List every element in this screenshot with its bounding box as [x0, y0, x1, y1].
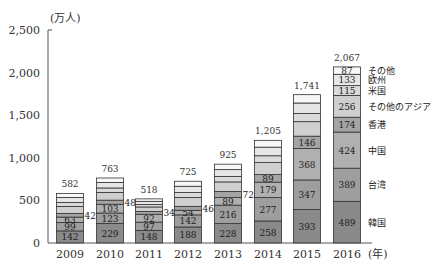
bar-2015: 3933473681461,741: [294, 81, 321, 243]
legend-item: その他のアジア: [368, 101, 431, 112]
y-tick-label: 500: [19, 194, 40, 207]
bar-segment: [255, 156, 282, 163]
legend-item: その他: [368, 65, 395, 76]
segment-value-label: 393: [298, 222, 315, 232]
bar-2013: 2282168972925: [215, 150, 254, 243]
bar-segment: [175, 186, 202, 192]
bar-segment: [57, 197, 84, 202]
bar-segment: [136, 199, 163, 201]
bar-total-label: 582: [61, 179, 78, 189]
x-tick-label: 2012: [174, 248, 202, 261]
segment-value-label: 188: [179, 230, 196, 240]
bar-total-label: 2,067: [334, 53, 360, 63]
bar-segment: [136, 207, 163, 211]
bar-segment: [175, 193, 202, 198]
bar-2012: 1881425446725: [175, 167, 215, 243]
bar-2014: 258277179891,205: [255, 126, 282, 243]
x-tick-label: 2011: [135, 248, 163, 261]
bar-2016: 489389424174256115133872,067: [334, 53, 361, 243]
legend-item: 欧州: [368, 74, 386, 85]
bar-segment: [97, 200, 124, 204]
bar-total-label: 725: [179, 167, 196, 177]
legend-item: 香港: [368, 119, 386, 130]
segment-value-label: 277: [259, 205, 276, 215]
bar-segment: [57, 202, 84, 206]
bar-segment: [97, 188, 124, 192]
legend-item: 台湾: [368, 179, 386, 190]
bar-segment: [294, 103, 321, 113]
bar-segment: [57, 206, 84, 213]
segment-side-label: 48: [125, 198, 137, 208]
segment-value-label: 148: [140, 232, 157, 242]
x-tick-label: 2013: [214, 248, 242, 261]
bar-segment: [294, 95, 321, 103]
segment-value-label: 174: [338, 120, 355, 130]
bar-segment: [215, 170, 242, 177]
bar-segment: [215, 176, 242, 181]
segment-value-label: 133: [338, 75, 355, 85]
bar-total-label: 763: [101, 164, 118, 174]
segment-value-label: 115: [338, 86, 355, 96]
segment-value-label: 229: [101, 229, 118, 239]
y-tick-label: 2,500: [9, 24, 41, 37]
bar-total-label: 518: [140, 185, 157, 195]
segment-value-label: 89: [222, 197, 234, 207]
x-tick-label: 2010: [96, 248, 124, 261]
segment-value-label: 389: [338, 180, 355, 190]
bar-segment: [294, 122, 321, 136]
bars: 1429963425822291231034876314897923451818…: [57, 53, 361, 243]
bar-segment: [97, 178, 124, 182]
segment-value-label: 179: [259, 185, 276, 195]
bar-total-label: 1,205: [255, 126, 281, 136]
segment-side-label: 72: [243, 190, 254, 200]
bar-segment: [255, 140, 282, 147]
bar-segment: [57, 214, 84, 218]
legend-item: 米国: [368, 85, 386, 96]
y-tick-label: 0: [33, 237, 40, 250]
bar-segment: [97, 192, 124, 200]
segment-value-label: 228: [219, 229, 236, 239]
bar-segment: [215, 182, 242, 192]
bar-segment: [255, 163, 282, 175]
bar-segment: [175, 181, 202, 186]
segment-value-label: 368: [298, 160, 315, 170]
x-tick-label: 2014: [254, 248, 282, 261]
bar-segment: [57, 193, 84, 197]
segment-value-label: 347: [298, 190, 315, 200]
legend-item: 中国: [368, 145, 386, 156]
x-axis-unit-label: (年): [368, 247, 388, 261]
x-tick-label: 2016: [333, 248, 361, 261]
bar-segment: [215, 191, 242, 197]
bar-segment: [97, 182, 124, 188]
segment-value-label: 258: [259, 228, 276, 238]
segment-value-label: 87: [341, 66, 353, 76]
segment-value-label: 92: [143, 214, 154, 224]
segment-side-label: 46: [203, 204, 215, 214]
segment-value-label: 489: [338, 218, 355, 228]
bar-segment: [175, 198, 202, 207]
segment-side-label: 42: [85, 211, 96, 221]
legend: 韓国台湾中国香港その他のアジア米国欧州その他: [368, 65, 431, 228]
bar-total-label: 925: [219, 150, 236, 160]
bar-segment: [136, 211, 163, 214]
y-tick-label: 2,000: [9, 67, 41, 80]
bar-segment: [294, 113, 321, 121]
legend-item: 韓国: [368, 218, 386, 228]
y-tick-label: 1,000: [9, 152, 41, 165]
bar-2010: 22912310348763: [97, 164, 137, 243]
bar-segment: [175, 206, 202, 210]
x-axis: 20092010201120122013201420152016(年): [48, 243, 388, 261]
segment-value-label: 216: [219, 210, 236, 220]
x-tick-label: 2009: [56, 248, 84, 261]
y-tick-label: 1,500: [9, 109, 41, 122]
segment-value-label: 424: [338, 146, 355, 156]
segment-value-label: 123: [101, 214, 118, 224]
segment-value-label: 146: [298, 138, 315, 148]
x-tick-label: 2015: [293, 248, 321, 261]
y-axis-unit-label: (万人): [50, 12, 81, 25]
bar-segment: [215, 164, 242, 169]
bar-segment: [255, 147, 282, 156]
bar-total-label: 1,741: [294, 81, 320, 91]
bar-2011: 148979234518: [136, 185, 176, 243]
segment-value-label: 89: [262, 174, 274, 184]
